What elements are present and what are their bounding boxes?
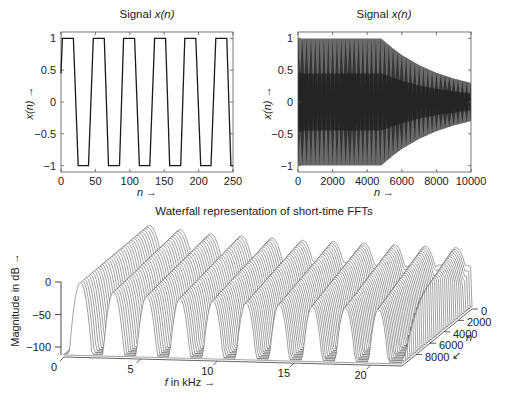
- y-tick-label: 1: [50, 32, 56, 44]
- x-tick-label: 8000: [424, 175, 448, 187]
- x-tick-label: 150: [155, 175, 173, 187]
- plot1-signal-line: [61, 38, 233, 165]
- z-tick-label: −100: [26, 341, 51, 353]
- f-tick: [367, 365, 371, 369]
- plot2-signal-fill: [298, 38, 471, 165]
- plot1-axes-box: [61, 32, 233, 172]
- x-tick-label: 2000: [320, 175, 344, 187]
- plot2-title: Signal x(n): [357, 8, 412, 20]
- f-tick: [213, 361, 217, 365]
- waterfall-n-arrow: ↙: [452, 349, 461, 361]
- x-tick-label: 0: [58, 175, 64, 187]
- y-tick-label: 0: [50, 96, 56, 108]
- x-tick-label: 0: [295, 175, 301, 187]
- n-tick-label: 0: [481, 305, 487, 317]
- x-tick-label: 250: [224, 175, 242, 187]
- x-tick-label: 50: [89, 175, 101, 187]
- f-tick-label: 15: [278, 367, 290, 379]
- waterfall-traces: [64, 226, 472, 365]
- plot1-xlabel: n →: [137, 186, 157, 198]
- waterfall-zlabel: Magnitude in dB →: [9, 253, 21, 347]
- waterfall-title: Waterfall representation of short-time F…: [155, 205, 373, 217]
- n-tick-label: 2000: [467, 316, 491, 328]
- plot1-ylabel: x(n) →: [23, 87, 35, 121]
- f-tick: [290, 363, 294, 367]
- plot-signal-short: Signal x(n) 050100150200250−1−0.500.51 n…: [23, 8, 242, 198]
- y-tick-label: 0.5: [278, 64, 293, 76]
- y-tick-label: 1: [287, 32, 293, 44]
- y-tick-label: −1: [43, 160, 56, 172]
- y-tick-label: 0.5: [41, 64, 56, 76]
- f-tick: [137, 359, 141, 363]
- y-tick-label: 0: [287, 96, 293, 108]
- plot2-xlabel: n →: [374, 186, 394, 198]
- z-tick-label: 0: [45, 276, 51, 288]
- waterfall-xlabel: f in kHz →: [165, 376, 216, 388]
- f-tick-label: 20: [354, 369, 366, 381]
- y-tick-label: −0.5: [34, 128, 56, 140]
- n-tick-label: 8000: [425, 351, 449, 363]
- waterfall-ylabel: n: [466, 331, 472, 343]
- plot2-ylabel: x(n) →: [261, 87, 273, 121]
- plot-waterfall: Waterfall representation of short-time F…: [9, 205, 491, 388]
- z-tick-label: −50: [32, 309, 51, 321]
- x-tick-label: 200: [189, 175, 207, 187]
- x-tick-label: 10000: [456, 175, 487, 187]
- figure: Signal x(n) 050100150200250−1−0.500.51 n…: [0, 0, 506, 402]
- f-tick-label: 5: [128, 363, 134, 375]
- plot1-title: Signal x(n): [120, 8, 175, 20]
- y-tick-label: −0.5: [271, 128, 293, 140]
- plot-signal-long: Signal x(n) 0200040006000800010000−1−0.5…: [261, 8, 486, 198]
- f-tick: [60, 357, 64, 361]
- y-tick-label: −1: [280, 160, 293, 172]
- f-tick-label: 0: [51, 361, 57, 373]
